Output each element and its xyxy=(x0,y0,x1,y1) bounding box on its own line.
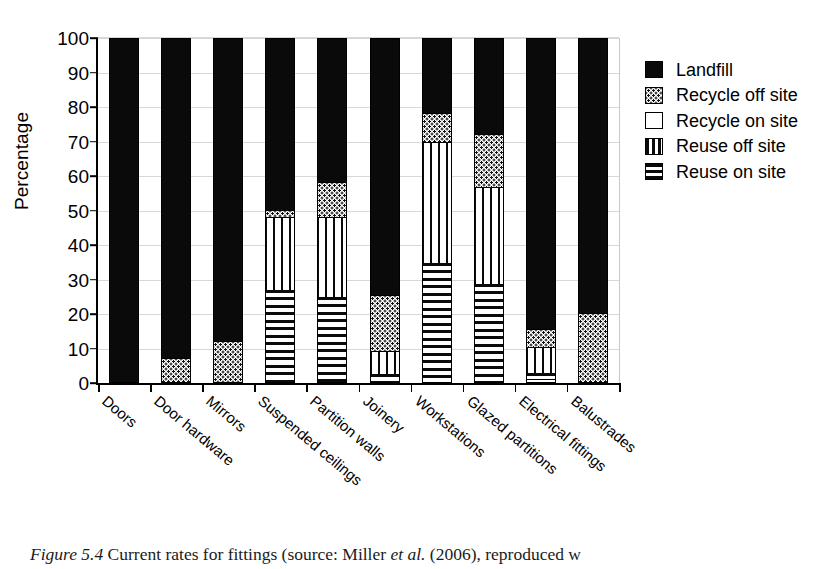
bar-segment-reuse-off-site xyxy=(474,187,504,284)
bar-segment-recycle-off-site xyxy=(422,113,452,141)
x-tick-mark xyxy=(359,383,361,392)
x-axis-labels: DoorsDoor hardwareMirrorsSuspended ceili… xyxy=(96,392,617,542)
y-tick-mark xyxy=(90,313,98,315)
x-tick-mark xyxy=(254,383,256,392)
bar-segment-landfill xyxy=(578,38,608,313)
stacked-bar[interactable] xyxy=(109,38,139,383)
bar-segment-landfill xyxy=(422,38,452,113)
stacked-bar[interactable] xyxy=(526,38,556,383)
caption-tail: (2006), reproduced w xyxy=(425,544,581,564)
bar-segment-recycle-off-site xyxy=(370,295,400,351)
plot-right-border xyxy=(619,38,620,383)
x-tick-mark xyxy=(411,383,413,392)
bar-segment-landfill xyxy=(109,38,139,383)
legend-label: Landfill xyxy=(676,61,733,79)
bar-segment-landfill xyxy=(213,38,243,341)
bar-segment-landfill xyxy=(526,38,556,329)
legend-swatch-recycle-off-icon xyxy=(645,87,663,104)
x-tick-label: Glazed partitions xyxy=(464,392,561,477)
y-tick-mark xyxy=(90,244,98,246)
x-tick-label: Joinery xyxy=(360,392,408,436)
bar-slot xyxy=(150,38,202,383)
y-tick-label: 70 xyxy=(43,132,89,151)
legend-item[interactable]: Landfill xyxy=(645,57,798,83)
legend-swatch-landfill-icon xyxy=(645,61,663,78)
bar-segment-reuse-off-site xyxy=(370,351,400,374)
legend-item[interactable]: Reuse off site xyxy=(645,134,798,160)
legend-swatch-reuse-off-icon xyxy=(645,138,663,155)
legend-item[interactable]: Reuse on site xyxy=(645,159,798,185)
legend-swatch-reuse-on-icon xyxy=(645,163,663,180)
y-tick-mark xyxy=(90,382,98,384)
bar-segment-recycle-off-site xyxy=(317,182,347,217)
x-tick-label: Electrical fittings xyxy=(516,392,610,475)
bar-segment-recycle-off-site xyxy=(265,210,295,218)
plot-area: 0102030405060708090100 xyxy=(96,38,619,385)
x-tick-mark xyxy=(98,383,100,392)
bar-segment-recycle-off-site xyxy=(526,329,556,347)
y-tick-mark xyxy=(90,72,98,74)
bar-slot xyxy=(411,38,463,383)
bar-segment-reuse-on-site xyxy=(422,263,452,383)
bar-segment-reuse-off-site xyxy=(265,217,295,290)
y-tick-label: 10 xyxy=(43,339,89,358)
y-tick-mark xyxy=(90,348,98,350)
legend-item[interactable]: Recycle off site xyxy=(645,83,798,109)
bar-slot xyxy=(202,38,254,383)
x-tick-mark xyxy=(150,383,152,392)
y-tick-mark xyxy=(90,37,98,39)
bar-segment-recycle-off-site xyxy=(161,358,191,383)
x-tick-label: Doors xyxy=(99,392,141,431)
legend-label: Recycle off site xyxy=(676,86,798,104)
y-tick-label: 30 xyxy=(43,270,89,289)
y-axis-title: Percentage xyxy=(11,51,33,271)
caption-figure-number: Figure 5.4 xyxy=(30,544,103,564)
y-tick-mark xyxy=(90,210,98,212)
bar-slot xyxy=(567,38,619,383)
y-tick-mark xyxy=(90,141,98,143)
y-tick-label: 50 xyxy=(43,201,89,220)
bar-segment-reuse-off-site xyxy=(317,217,347,297)
x-tick-mark xyxy=(463,383,465,392)
y-tick-mark xyxy=(90,175,98,177)
bar-segment-landfill xyxy=(161,38,191,358)
legend-label: Reuse off site xyxy=(676,137,786,155)
stacked-bar[interactable] xyxy=(265,38,295,383)
stacked-bar[interactable] xyxy=(317,38,347,383)
chart-legend: LandfillRecycle off siteRecycle on siteR… xyxy=(645,57,798,185)
bar-slot xyxy=(98,38,150,383)
x-tick-mark xyxy=(619,383,621,392)
bar-slot xyxy=(254,38,306,383)
caption-text: Current rates for fittings (source: Mill… xyxy=(103,544,390,564)
bar-slot xyxy=(306,38,358,383)
bar-segment-recycle-off-site xyxy=(578,313,608,383)
y-tick-label: 20 xyxy=(43,305,89,324)
y-tick-mark xyxy=(90,279,98,281)
bar-segment-landfill xyxy=(474,38,504,134)
bar-segment-reuse-off-site xyxy=(526,347,556,374)
caption-et-al: et al. xyxy=(390,544,425,564)
stacked-bar[interactable] xyxy=(370,38,400,383)
stacked-bar[interactable] xyxy=(213,38,243,383)
bar-segment-recycle-on-site xyxy=(526,379,556,383)
x-tick-mark xyxy=(567,383,569,392)
y-tick-label: 0 xyxy=(43,374,89,393)
legend-label: Reuse on site xyxy=(676,163,786,181)
y-tick-label: 80 xyxy=(43,98,89,117)
stacked-bar[interactable] xyxy=(161,38,191,383)
y-tick-mark xyxy=(90,106,98,108)
stacked-bar[interactable] xyxy=(578,38,608,383)
bar-segment-landfill xyxy=(317,38,347,182)
bar-segment-landfill xyxy=(370,38,400,295)
stacked-bar[interactable] xyxy=(474,38,504,383)
y-tick-label: 90 xyxy=(43,63,89,82)
bar-segment-reuse-on-site xyxy=(317,297,347,383)
bar-segment-recycle-off-site xyxy=(213,341,243,383)
y-tick-label: 40 xyxy=(43,236,89,255)
stacked-bar[interactable] xyxy=(422,38,452,383)
bar-segment-reuse-off-site xyxy=(422,142,452,263)
x-tick-label: Mirrors xyxy=(203,392,250,435)
bar-slot xyxy=(358,38,410,383)
figure-container: Percentage 0102030405060708090100 DoorsD… xyxy=(0,0,840,569)
legend-item[interactable]: Recycle on site xyxy=(645,108,798,134)
